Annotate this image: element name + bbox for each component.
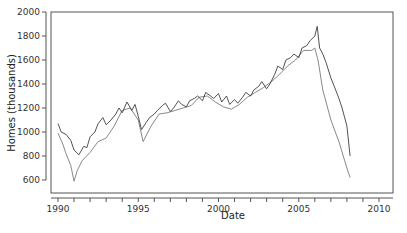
- x-tick-label: 1990: [47, 204, 70, 214]
- y-tick-label: 800: [23, 151, 40, 161]
- series-dark-line: [58, 26, 350, 156]
- y-axis-ticks: 600800100012001400160018002000: [17, 7, 46, 185]
- x-axis-ticks: 19901995200020052010: [47, 198, 391, 214]
- y-tick-label: 1600: [17, 55, 40, 65]
- y-axis-title: Homes (thousands): [6, 54, 17, 152]
- y-tick-label: 1000: [17, 127, 40, 137]
- x-tick-label: 2005: [287, 204, 310, 214]
- x-axis-title: Date: [221, 210, 245, 221]
- plot-frame: [51, 12, 393, 193]
- y-tick-label: 1200: [17, 103, 40, 113]
- y-tick-label: 600: [23, 175, 40, 185]
- x-tick-label: 2010: [368, 204, 391, 214]
- y-tick-label: 1400: [17, 79, 40, 89]
- y-tick-label: 2000: [17, 7, 40, 17]
- line-chart: 600800100012001400160018002000 199019952…: [0, 0, 407, 233]
- y-tick-label: 1800: [17, 31, 40, 41]
- data-series: [58, 26, 350, 181]
- x-tick-label: 1995: [127, 204, 150, 214]
- series-light-line: [58, 48, 350, 181]
